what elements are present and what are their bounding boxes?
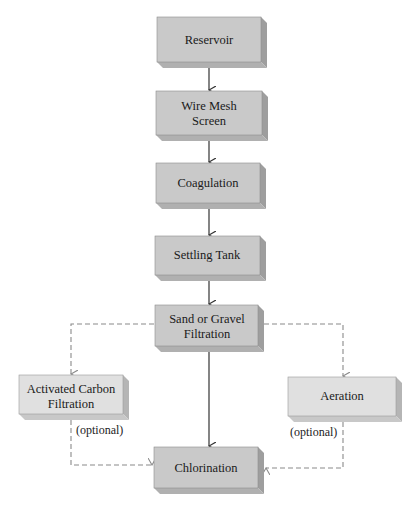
node-reservoir: Reservoir xyxy=(157,17,267,68)
node-coagulation: Coagulation xyxy=(156,163,266,209)
node-wire-mesh-screen: Wire Mesh Screen xyxy=(156,91,268,141)
node-label: Settling Tank xyxy=(174,248,241,262)
node-label-line2: Screen xyxy=(192,114,227,128)
node-sand-gravel-filtration: Sand or Gravel Filtration xyxy=(155,305,264,352)
node-label: Aeration xyxy=(320,389,364,403)
edge-sand-to-activated-carbon xyxy=(71,324,154,374)
node-aeration: Aeration xyxy=(288,377,402,422)
edge-sand-to-aeration xyxy=(264,324,343,376)
node-label: Coagulation xyxy=(177,176,239,190)
node-activated-carbon-filtration: Activated Carbon Filtration xyxy=(19,375,129,420)
node-label-line1: Activated Carbon xyxy=(27,382,116,396)
node-label: Reservoir xyxy=(185,33,234,47)
optional-label-right: (optional) xyxy=(290,425,337,439)
node-label-line1: Wire Mesh xyxy=(181,99,237,113)
water-treatment-flowchart: Reservoir Wire Mesh Screen Coagulation S… xyxy=(0,0,416,509)
node-settling-tank: Settling Tank xyxy=(155,236,266,281)
optional-label-left: (optional) xyxy=(76,423,123,437)
node-label: Chlorination xyxy=(174,461,238,475)
node-label-line2: Filtration xyxy=(48,397,95,411)
node-label-line1: Sand or Gravel xyxy=(169,312,245,326)
node-label-line2: Filtration xyxy=(184,327,231,341)
node-chlorination: Chlorination xyxy=(154,447,264,494)
